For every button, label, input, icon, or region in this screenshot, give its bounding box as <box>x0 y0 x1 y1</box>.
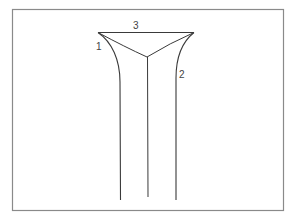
left-curve-1 <box>98 33 121 201</box>
label-3: 3 <box>133 20 139 31</box>
label-2: 2 <box>179 69 185 80</box>
diagram-canvas: 3 1 2 <box>0 0 298 223</box>
inner-edge-right <box>147 33 194 58</box>
right-curve-2 <box>176 33 194 201</box>
label-1: 1 <box>96 41 102 52</box>
center-line <box>148 57 149 197</box>
inner-edge-left <box>98 33 147 58</box>
